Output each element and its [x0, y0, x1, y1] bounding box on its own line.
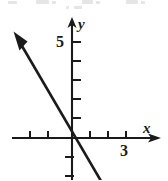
- y-axis-tick-label-5: 5: [56, 34, 64, 50]
- y-axis-label: y: [78, 17, 85, 32]
- line-graph-figure: y x 5 3: [0, 0, 168, 180]
- x-axis-group: [12, 131, 161, 143]
- x-axis-label: x: [143, 121, 151, 136]
- plotted-line-arrowhead: [14, 32, 28, 51]
- plotted-line-group: [14, 32, 102, 181]
- x-axis-tick-label-3: 3: [120, 143, 128, 159]
- plotted-line-segment: [22, 46, 101, 180]
- y-axis-group: [65, 17, 81, 180]
